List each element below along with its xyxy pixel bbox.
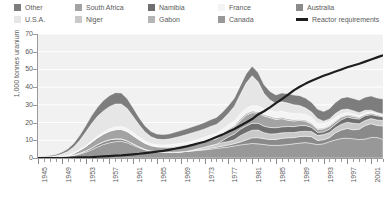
x-axis-tick [258,159,259,162]
x-axis-tick [383,159,384,162]
x-axis-tick [318,159,319,162]
legend-item-australia[interactable]: Australia [296,4,334,11]
x-axis-tick [56,159,57,162]
legend-item-south-africa[interactable]: South Africa [75,4,124,11]
y-axis-tick-label: 20 [0,119,33,126]
legend-color-swatch-icon [296,4,303,11]
x-axis-tick [282,159,283,162]
x-axis-tick [80,159,81,162]
x-axis-tick [288,159,289,162]
legend-color-swatch-icon [75,4,82,11]
x-axis-tick-label: 1989 [303,167,310,183]
x-axis-tick [324,159,325,164]
x-axis-tick [127,159,128,162]
y-axis-tick [33,52,37,53]
x-axis-tick-label: 1965 [160,167,167,183]
x-axis-tick-label: 1953 [89,167,96,183]
x-axis-tick [205,159,206,164]
y-axis-tick [33,123,37,124]
x-axis-tick [187,159,188,162]
x-axis-tick [169,159,170,162]
y-axis-tick-label: 10 [0,136,33,143]
y-axis-tick [33,140,37,141]
x-axis-tick [163,159,164,162]
legend-color-swatch-icon [218,16,225,23]
x-axis-tick [50,159,51,162]
legend-color-swatch-icon [148,4,155,11]
x-axis-tick [103,159,104,162]
x-axis-tick [306,159,307,162]
x-axis-tick [92,159,93,162]
x-axis-tick [68,159,69,162]
y-axis-tick-label: 0 [0,154,33,161]
chart-legend: OtherU.S.A.South AfricaNigerNamibiaGabon… [0,0,392,30]
x-axis-tick [216,159,217,162]
stacked-area-svg [38,34,383,158]
x-axis-tick [109,159,110,164]
legend-item-reactor-requirements[interactable]: Reactor requirements [296,16,379,23]
x-axis-tick [38,159,39,164]
x-axis-tick [74,159,75,162]
y-axis-tick [33,69,37,70]
y-axis-line [37,34,38,159]
x-axis-tick-label: 1961 [136,167,143,183]
legend-label: France [229,4,251,11]
x-axis-tick [353,159,354,162]
x-axis-tick [341,159,342,162]
x-axis-tick-label: 1957 [112,167,119,183]
x-axis-tick [276,159,277,164]
plot-area [38,34,383,158]
y-axis-tick [33,105,37,106]
legend-item-niger[interactable]: Niger [75,16,103,23]
legend-label: Namibia [159,4,185,11]
x-axis-tick [335,159,336,162]
y-axis-tick [33,158,37,159]
legend-color-swatch-icon [148,16,155,23]
x-axis-tick [246,159,247,162]
legend-label: Reactor requirements [312,16,379,23]
x-axis-tick [270,159,271,162]
x-axis-tick-label: 1997 [350,167,357,183]
x-axis-tick [377,159,378,162]
x-axis-tick [139,159,140,162]
x-axis-tick [211,159,212,162]
x-axis-tick [234,159,235,162]
legend-item-gabon[interactable]: Gabon [148,16,180,23]
x-axis-tick [347,159,348,164]
x-axis-tick-label: 2001 [374,167,381,183]
y-axis-title: 1,000 tonnes uranium [13,12,20,116]
x-axis-tick [222,159,223,162]
legend-label: Australia [307,4,334,11]
x-axis-line [37,158,383,159]
y-axis-tick [33,87,37,88]
y-axis-tick [33,34,37,35]
x-axis-tick [365,159,366,162]
legend-item-namibia[interactable]: Namibia [148,4,185,11]
x-axis-tick [121,159,122,162]
x-axis-tick [157,159,158,164]
x-axis-tick [300,159,301,164]
uranium-production-chart: OtherU.S.A.South AfricaNigerNamibiaGabon… [0,0,392,197]
x-axis-tick-label: 1973 [208,167,215,183]
legend-line-swatch-icon [296,18,308,21]
x-axis-tick [175,159,176,162]
legend-label: Gabon [159,16,180,23]
legend-label: Niger [86,16,103,23]
x-axis-tick-label: 1985 [279,167,286,183]
legend-item-canada[interactable]: Canada [218,16,254,23]
x-axis-tick [371,159,372,164]
x-axis-tick [181,159,182,164]
x-axis-tick [264,159,265,162]
x-axis-tick [44,159,45,162]
legend-label: South Africa [86,4,124,11]
legend-item-france[interactable]: France [218,4,251,11]
x-axis-tick [329,159,330,162]
x-axis-tick [97,159,98,162]
x-axis-tick [193,159,194,162]
legend-color-swatch-icon [218,4,225,11]
x-axis-tick [115,159,116,162]
x-axis-tick-label: 1949 [65,167,72,183]
x-axis-tick [151,159,152,162]
x-axis-tick [294,159,295,162]
x-axis-tick [145,159,146,162]
